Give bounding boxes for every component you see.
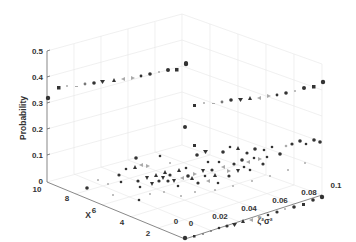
- svg-text:8: 8: [65, 194, 70, 203]
- y-axis-line: [185, 195, 322, 239]
- svg-text:0.2: 0.2: [32, 125, 44, 134]
- svg-text:0.08: 0.08: [301, 188, 317, 197]
- 3d-scatter-chart: 0.5 0.4 0.3 0.2 0.1 0 Probability 10 8 6…: [0, 0, 356, 242]
- svg-text:0.3: 0.3: [32, 99, 44, 108]
- z-tick-labels: 0.5 0.4 0.3 0.2 0.1 0: [32, 47, 44, 186]
- series-interior-cloud: [85, 125, 322, 201]
- svg-text:4: 4: [120, 218, 125, 227]
- z-axis-label: Probability: [18, 96, 28, 140]
- svg-text:0.5: 0.5: [32, 47, 44, 56]
- series-front-edge: [183, 195, 324, 240]
- svg-text:6: 6: [92, 206, 97, 215]
- svg-text:0.1: 0.1: [32, 151, 44, 160]
- svg-text:0: 0: [189, 219, 194, 228]
- svg-text:2: 2: [146, 229, 151, 238]
- x-tick-labels: 10 8 6 4 2: [33, 185, 151, 238]
- svg-text:0.02: 0.02: [212, 212, 228, 221]
- svg-text:0.1: 0.1: [330, 181, 342, 190]
- x-axis-line: [47, 182, 185, 239]
- x-axis-label: X: [85, 210, 91, 220]
- svg-text:0.06: 0.06: [272, 196, 288, 205]
- x-tick-zero: 0: [174, 217, 179, 226]
- series-back-wall: [46, 62, 188, 100]
- svg-text:10: 10: [33, 185, 42, 194]
- svg-text:0.04: 0.04: [241, 204, 257, 213]
- svg-text:0.4: 0.4: [32, 73, 44, 82]
